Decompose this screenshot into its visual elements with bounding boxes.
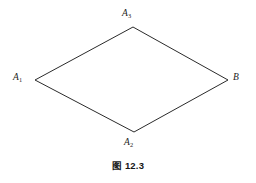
figure-caption-number: 12.3 [125, 160, 144, 171]
vertex-label-a2-subscript: 2 [130, 141, 133, 148]
rhombus-outline [35, 27, 228, 132]
vertex-label-a3-subscript: 3 [128, 12, 131, 19]
vertex-label-a1: A1 [13, 73, 22, 83]
vertex-label-a1-subscript: 1 [19, 76, 22, 83]
vertex-label-a2: A2 [124, 138, 133, 148]
figure-container: A3 A1 B A2 图 12.3 [0, 0, 256, 183]
rhombus-diagram [0, 0, 256, 183]
figure-caption: 图 12.3 [0, 159, 256, 172]
vertex-label-b: B [233, 73, 239, 83]
vertex-label-b-letter: B [233, 72, 239, 82]
vertex-label-a3: A3 [122, 9, 131, 19]
figure-caption-prefix: 图 [112, 160, 122, 171]
